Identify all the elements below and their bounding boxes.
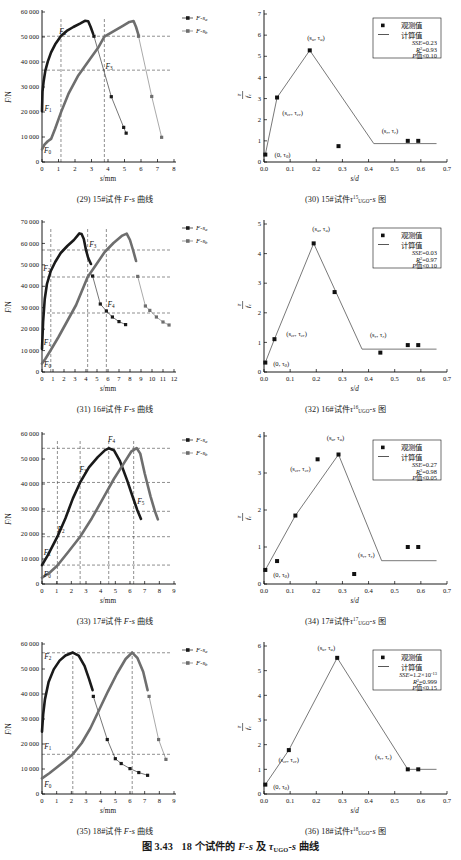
x-tick-label: 12 xyxy=(171,375,178,382)
stat-p: P值<0.10 xyxy=(411,51,437,60)
x-tick-label: 3 xyxy=(73,375,77,382)
x-tick-label: 7 xyxy=(143,797,147,804)
x-tick-label: 0.7 xyxy=(443,797,452,804)
point-label: (scr, τcr) xyxy=(282,109,303,117)
data-marker xyxy=(167,323,170,326)
y-tick-label: 50 000 xyxy=(21,665,40,672)
annotation-F1: F1 xyxy=(43,104,52,113)
x-tick-label: 5 xyxy=(123,165,127,172)
data-marker xyxy=(91,274,94,277)
x-tick-label: 0.2 xyxy=(312,375,320,382)
point-label: (scr, τcr) xyxy=(286,330,307,338)
legend-observed-label: 观测值 xyxy=(401,21,423,30)
svg-text:τ: τ xyxy=(235,303,243,306)
point-label: (su, τu) xyxy=(312,225,330,233)
data-marker xyxy=(117,320,120,323)
data-marker xyxy=(111,315,114,318)
caption-p32: (32) 16#试件τ16UGO-s 图 xyxy=(230,402,461,414)
x-tick-label: 3 xyxy=(84,797,88,804)
legend-marker xyxy=(186,226,190,230)
x-tick-label: 0.3 xyxy=(338,375,347,382)
y-axis-title: F/N xyxy=(5,90,13,103)
y-tick-label: 3 xyxy=(258,716,262,723)
panel-p30: 0.00.10.20.30.40.50.60.701234567τfcs/d(0… xyxy=(230,0,461,190)
x-tick-label: 10 xyxy=(149,375,156,382)
data-marker xyxy=(147,695,150,698)
data-marker xyxy=(137,35,140,38)
y-tick-label: 1 xyxy=(258,766,261,773)
data-marker xyxy=(157,738,160,741)
x-tick-label: 0.5 xyxy=(391,165,400,172)
legend-marker xyxy=(186,648,190,652)
observed-point xyxy=(416,343,420,347)
observed-point xyxy=(378,351,382,355)
x-tick-label: 0.5 xyxy=(391,797,400,804)
annotation-F4: F4 xyxy=(106,300,115,309)
svg-text:fc: fc xyxy=(244,93,252,98)
x-axis-title: s/d xyxy=(351,175,360,183)
data-marker xyxy=(99,302,102,305)
series-tail-0 xyxy=(94,36,126,133)
x-tick-label: 5 xyxy=(114,587,118,594)
x-tick-label: 0.0 xyxy=(260,587,269,594)
legend-label: F-sb xyxy=(195,237,208,245)
legend-label: F-sa xyxy=(195,14,208,22)
x-tick-label: 11 xyxy=(160,375,166,382)
x-tick-label: 0.6 xyxy=(417,797,426,804)
x-tick-label: 0 xyxy=(40,797,44,804)
x-axis-title: s/d xyxy=(351,807,360,815)
annotation-F1: F1 xyxy=(43,338,52,347)
y-tick-label: 40 000 xyxy=(21,480,40,487)
x-tick-label: 0.7 xyxy=(443,165,452,172)
y-tick-label: 3 xyxy=(258,469,262,476)
x-tick-label: 0.1 xyxy=(286,797,294,804)
y-tick-label: 40 000 xyxy=(21,282,40,289)
svg-text:τ: τ xyxy=(235,725,243,728)
annotation-F1: F1 xyxy=(43,742,52,751)
x-tick-label: 2 xyxy=(73,165,76,172)
legend-label: F-sa xyxy=(195,224,208,232)
legend-marker xyxy=(186,16,190,20)
data-marker xyxy=(106,738,109,741)
observed-point xyxy=(335,656,339,660)
point-label: (sr, τr) xyxy=(358,551,375,559)
x-tick-label: 1 xyxy=(55,797,58,804)
observed-point xyxy=(416,139,420,143)
observed-point xyxy=(287,748,291,752)
x-tick-label: 6 xyxy=(128,797,132,804)
annotation-F0: F0 xyxy=(43,780,52,789)
x-tick-label: 8 xyxy=(158,587,162,594)
x-tick-label: 7 xyxy=(117,375,121,382)
y-tick-label: 20 000 xyxy=(21,325,40,332)
observed-point xyxy=(275,559,279,563)
legend-observed-marker xyxy=(381,24,385,28)
annotation-F0: F0 xyxy=(43,146,52,155)
data-marker xyxy=(160,136,163,139)
y-tick-label: 20 000 xyxy=(21,740,40,747)
observed-point xyxy=(337,144,341,148)
x-tick-label: 0.7 xyxy=(443,375,452,382)
observed-point xyxy=(263,783,267,787)
observed-point xyxy=(275,96,279,100)
annotation-F3: F3 xyxy=(88,240,97,249)
y-tick-label: 60 000 xyxy=(21,240,40,247)
x-tick-label: 0.3 xyxy=(338,797,347,804)
observed-point xyxy=(263,361,267,365)
chart-bond-slip-p34: 0.00.10.20.30.40.50.60.701234τfcs/d(0, τ… xyxy=(230,422,461,612)
x-axis-title: s/mm xyxy=(100,175,116,183)
x-tick-label: 4 xyxy=(106,165,110,172)
data-marker xyxy=(144,304,147,307)
stat-p: P值<0.15 xyxy=(411,683,437,692)
legend-marker xyxy=(186,29,190,33)
y-tick-label: 3 xyxy=(258,279,262,286)
y-tick-label: 2 xyxy=(258,309,261,316)
legend-observed-marker xyxy=(381,446,385,450)
data-marker xyxy=(124,323,127,326)
y-axis-title: F/N xyxy=(5,512,13,525)
figure-caption: 图 3.43 18 个试件的 F-s 及 τUGO-s 曲线 xyxy=(0,838,461,853)
svg-text:τ: τ xyxy=(235,515,243,518)
data-marker xyxy=(155,315,158,318)
x-tick-label: 0.2 xyxy=(312,587,320,594)
x-axis-title: s/mm xyxy=(100,807,116,815)
x-tick-label: 1 xyxy=(51,375,54,382)
